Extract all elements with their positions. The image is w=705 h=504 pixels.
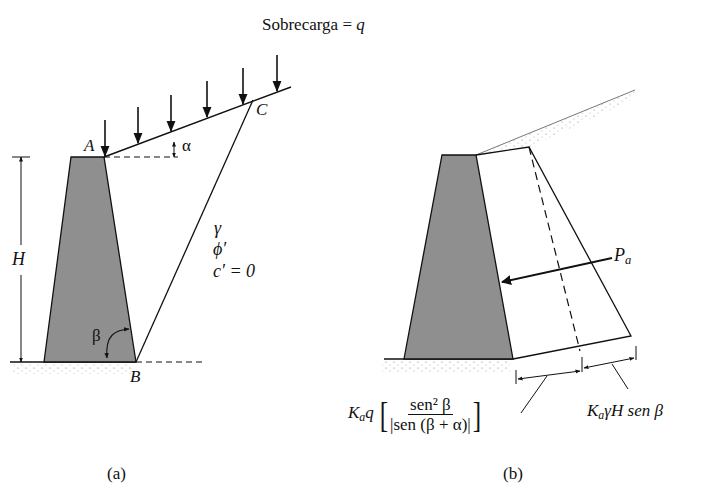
unit-weight-label: γ — [214, 219, 221, 237]
point-a-label: A — [84, 137, 94, 154]
panel-b — [382, 90, 636, 413]
ground-hatch-a — [12, 364, 132, 374]
ground-hatch-b — [382, 361, 510, 373]
alpha-label: α — [182, 137, 191, 154]
surcharge-title: Sobrecarga = q — [262, 16, 365, 33]
top-pressure-formula: Kaq [sen² β|sen (β + α)|] — [348, 396, 483, 433]
bottom-pressure-formula: KaγH sen β — [587, 402, 663, 422]
failure-plane-bc — [136, 100, 253, 362]
pressure-divider-dashed — [529, 147, 580, 351]
bottom-pressure-dimension — [584, 358, 634, 368]
beta-label: β — [92, 327, 101, 344]
backfill-surface — [104, 87, 291, 157]
bracket-right: ] — [473, 397, 481, 433]
bracket-left: [ — [380, 397, 388, 433]
friction-angle-label: ϕ′ — [213, 240, 226, 258]
cohesion-label: c′ = 0 — [213, 262, 255, 280]
point-b-label: B — [130, 368, 140, 385]
leader-bottom-pressure — [612, 364, 628, 389]
top-pressure-dimension — [518, 371, 580, 379]
backfill-surface-b — [476, 90, 635, 155]
caption-b: (b) — [503, 465, 523, 482]
panel-a — [10, 55, 291, 374]
wall-b — [404, 155, 513, 359]
height-label: H — [12, 250, 25, 268]
active-force-label: Pa — [614, 246, 631, 267]
formula-fraction: sen² β|sen (β + α)| — [390, 396, 471, 433]
caption-a: (a) — [107, 465, 126, 482]
wall-a — [44, 157, 136, 362]
point-c-label: C — [256, 101, 267, 118]
leader-top-pressure — [521, 376, 547, 413]
